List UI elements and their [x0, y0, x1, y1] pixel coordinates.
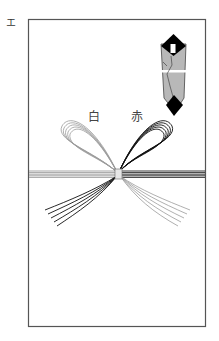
red-label: 赤	[131, 107, 143, 124]
cord-knot	[115, 169, 122, 179]
noshi-envelope-diagram	[0, 0, 219, 341]
white-label: 白	[88, 107, 100, 124]
